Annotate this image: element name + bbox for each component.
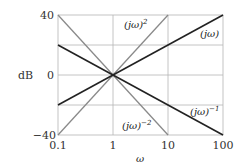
label-jw: (jω) — [200, 28, 219, 39]
xtick-10: 10 — [161, 139, 175, 152]
label-jw2: (jω)2 — [124, 18, 148, 30]
bode-chart: 40 0 −40 dB 0.1 1 10 100 ω (jω)2 (jω) (j… — [0, 0, 241, 168]
xtick-100: 100 — [213, 139, 234, 152]
x-axis-label: ω — [136, 153, 144, 164]
y-axis-label: dB — [18, 69, 33, 82]
label-jw-2: (jω)−2 — [122, 119, 152, 131]
ytick-40: 40 — [40, 9, 54, 22]
ytick-0: 0 — [47, 69, 54, 82]
grid — [58, 15, 223, 135]
xtick-0.1: 0.1 — [49, 139, 67, 152]
label-jw-1: (jω)−1 — [190, 105, 219, 117]
xtick-1: 1 — [110, 139, 117, 152]
